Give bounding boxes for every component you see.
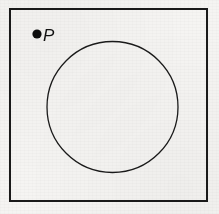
point-label-p: P <box>43 26 55 45</box>
figure-container: P <box>0 0 219 214</box>
point-marker-dot <box>32 29 41 38</box>
geometry-diagram: P <box>0 0 219 214</box>
circle <box>47 42 178 173</box>
